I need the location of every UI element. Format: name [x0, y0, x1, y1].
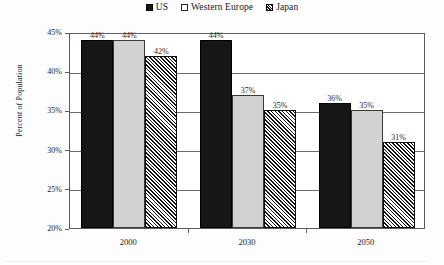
y-tick-label: 30%: [28, 147, 62, 155]
bar: 44%: [113, 40, 145, 228]
y-tick-label: 40%: [28, 68, 62, 76]
x-tick-mark: [306, 229, 307, 233]
bar-value-label: 44%: [122, 32, 137, 40]
y-tick-label: 20%: [28, 225, 62, 233]
bar: 37%: [232, 95, 264, 228]
bar-chart: US Western Europe Japan Percent of Popul…: [0, 0, 444, 265]
x-tick-mark: [188, 229, 189, 233]
bar: 35%: [351, 110, 383, 228]
y-tick-label: 45%: [28, 29, 62, 37]
plot-area: 44%44%42%44%37%35%36%35%31%: [69, 33, 425, 229]
bar: 35%: [264, 110, 296, 228]
bar: 44%: [81, 40, 113, 228]
y-axis-title: Percent of Population: [15, 26, 24, 176]
bar: 44%: [200, 40, 232, 228]
bar: 42%: [145, 56, 177, 228]
x-tick-label: 2000: [98, 238, 158, 247]
outline-square-icon: [181, 4, 188, 11]
legend-label-japan: Japan: [276, 3, 298, 13]
bar-value-label: 31%: [391, 134, 406, 142]
bar-value-label: 42%: [154, 48, 169, 56]
legend-label-us: US: [156, 3, 168, 13]
y-tick-label: 35%: [28, 107, 62, 115]
hatched-square-icon: [266, 4, 273, 11]
bar-groups: 44%44%42%44%37%35%36%35%31%: [70, 34, 424, 228]
bar-value-label: 36%: [327, 95, 342, 103]
x-tick-label: 2030: [217, 238, 277, 247]
solid-square-icon: [146, 4, 153, 11]
bar-value-label: 35%: [273, 102, 288, 110]
bar-value-label: 37%: [241, 87, 256, 95]
legend-entry-western-europe: Western Europe: [181, 3, 253, 13]
legend-entry-japan: Japan: [266, 3, 298, 13]
bar-value-label: 44%: [90, 32, 105, 40]
bar-value-label: 35%: [359, 102, 374, 110]
bar-value-label: 44%: [209, 32, 224, 40]
y-tick-label: 25%: [28, 186, 62, 194]
bar: 36%: [319, 103, 351, 228]
legend-entry-us: US: [146, 3, 168, 13]
scan-artifact-line: [6, 261, 426, 262]
legend-label-western-europe: Western Europe: [191, 3, 253, 13]
bar: 31%: [383, 142, 415, 228]
chart-legend: US Western Europe Japan: [0, 3, 444, 13]
x-tick-label: 2050: [336, 238, 396, 247]
